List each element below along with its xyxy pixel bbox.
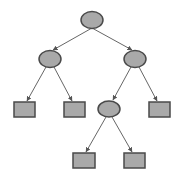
node-left-left-rect (14, 102, 35, 117)
edge-root-to-left (53, 28, 92, 50)
node-right-ellipse (124, 51, 146, 68)
edge-right-to-right-right (139, 67, 157, 101)
node-right-right-rect (149, 102, 170, 117)
nodes-group (14, 12, 170, 169)
edge-left-to-left-left (27, 67, 46, 101)
node-left-right-rect (64, 102, 85, 117)
edges-group (27, 28, 157, 152)
edge-right-to-right-left (113, 67, 131, 100)
node-root-ellipse (81, 12, 103, 29)
edge-right-left-to-right-left-right (112, 117, 132, 152)
edge-right-left-to-right-left-left (86, 117, 106, 152)
tree-diagram (0, 0, 183, 181)
node-right-left-ellipse (98, 101, 120, 117)
edge-left-to-left-right (54, 67, 72, 101)
edge-root-to-right (92, 28, 132, 50)
node-right-left-left-rect (73, 153, 95, 168)
node-left-ellipse (39, 51, 61, 68)
node-right-left-right-rect (124, 153, 145, 168)
